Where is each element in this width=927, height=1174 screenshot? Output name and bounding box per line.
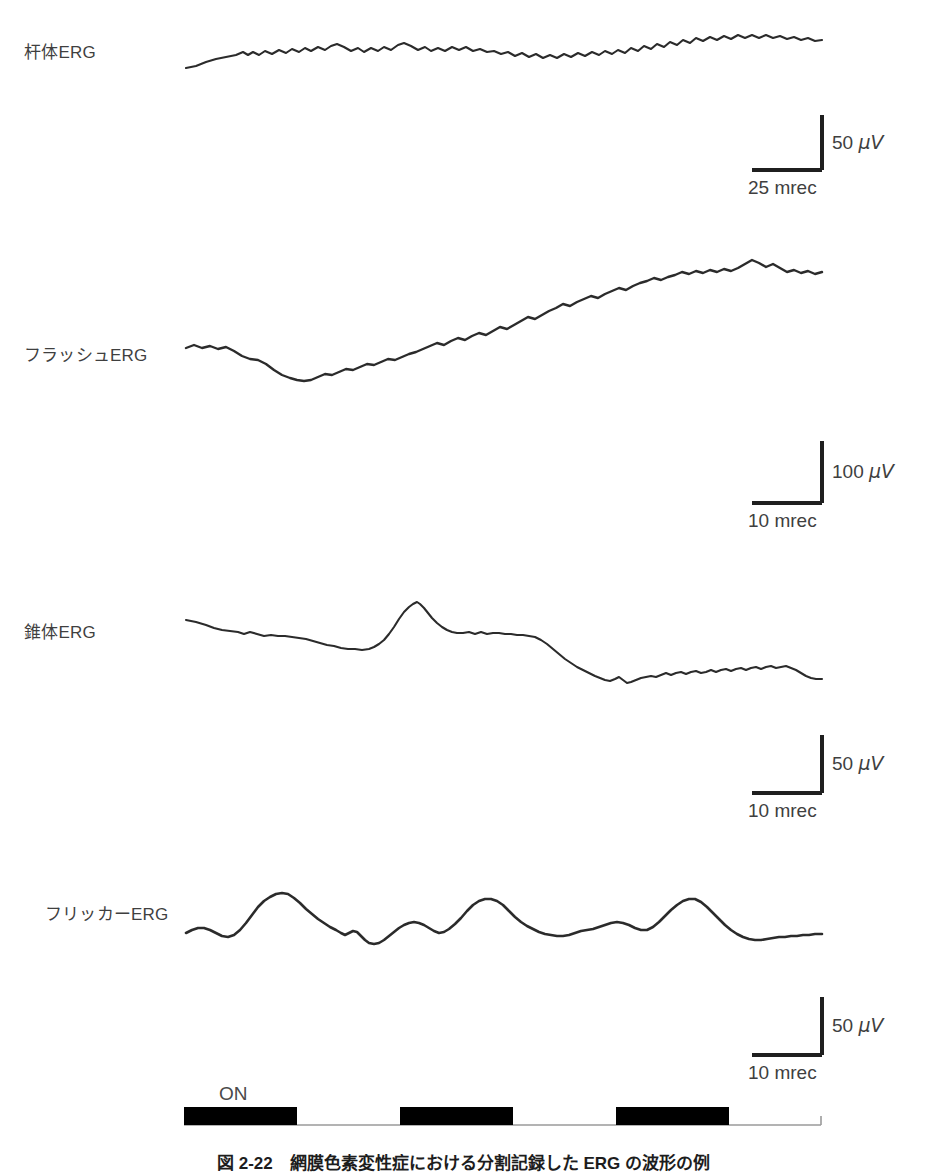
trace-group-cone-erg (186, 602, 822, 683)
stimulus-on-bar-1 (184, 1107, 297, 1125)
scale-label-time-flash-erg: 10 mrec (748, 511, 817, 530)
scale-label-amplitude-cone-erg: 50 μV (832, 754, 884, 773)
trace-label-rod-erg: 杆体ERG (24, 44, 96, 61)
trace-group-flicker-erg (186, 893, 822, 944)
scale-amplitude-unit: μV (869, 460, 894, 482)
trace-label-flicker-erg: フリッカーERG (45, 906, 168, 923)
trace-group-flash-erg (186, 260, 822, 381)
scale-amplitude-value: 50 (832, 1015, 858, 1036)
trace-flash-erg (186, 260, 822, 381)
trace-rod-erg (186, 35, 822, 68)
trace-label-cone-erg: 錐体ERG (24, 624, 96, 641)
scale-label-time-flicker-erg: 10 mrec (748, 1063, 817, 1082)
scale-amplitude-unit: μV (858, 1014, 883, 1036)
scale-label-amplitude-flicker-erg: 50 μV (832, 1016, 884, 1035)
scale-amplitude-value: 50 (832, 132, 858, 153)
stimulus-on-bar-3 (616, 1107, 729, 1125)
stimulus-track (184, 1107, 821, 1125)
scale-label-amplitude-flash-erg: 100 μV (832, 462, 894, 481)
trace-cone-erg (186, 602, 822, 683)
stimulus-on-bar-2 (400, 1107, 513, 1125)
trace-group-rod-erg (186, 35, 822, 68)
scale-amplitude-unit: μV (858, 752, 883, 774)
scale-amplitude-value: 100 (832, 461, 869, 482)
trace-flicker-erg (186, 893, 822, 944)
stimulus-on-label: ON (219, 1084, 248, 1103)
scale-label-amplitude-rod-erg: 50 μV (832, 133, 884, 152)
scale-label-time-rod-erg: 25 mrec (748, 178, 817, 197)
figure-caption: 図 2-22 網膜色素変性症における分割記録した ERG の波形の例 (0, 1154, 927, 1174)
scale-amplitude-value: 50 (832, 753, 858, 774)
scale-amplitude-unit: μV (858, 131, 883, 153)
scale-label-time-cone-erg: 10 mrec (748, 801, 817, 820)
trace-label-flash-erg: フラッシュERG (24, 347, 147, 364)
scale-bar-group (752, 115, 822, 1055)
